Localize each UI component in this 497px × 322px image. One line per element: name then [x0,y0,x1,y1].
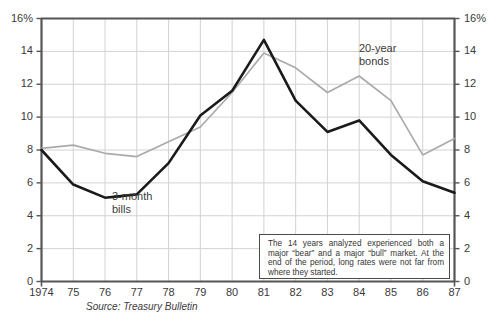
series-label-20-year-bonds: 20-year bonds [359,42,396,67]
callout-text: The 14 years analyzed experienced both a… [268,239,444,277]
y-axis-tick-label-left: 8 [0,143,33,155]
line-chart: 0246810121416% 0246810121416% 1974757677… [0,0,497,322]
series-line-20-year-bonds [42,53,455,157]
y-axis-tick-label-right: 14 [464,44,497,56]
y-axis-tick-label-right: 8 [464,143,497,155]
y-axis-tick-label-left: 0 [0,275,33,287]
y-axis-tick-label-left: 14 [0,44,33,56]
source-note: Source: Treasury Bulletin [86,301,198,312]
y-axis-tick-label-right: 16% [464,12,497,24]
y-axis-tick-label-left: 4 [0,209,33,221]
y-axis-tick-label-left: 2 [0,242,33,254]
y-axis-tick-label-right: 6 [464,176,497,188]
series-label-3-month-bills: 3-month bills [112,190,152,215]
y-axis-tick-label-left: 10 [0,110,33,122]
y-axis-tick-label-right: 2 [464,242,497,254]
y-axis-tick-label-left: 16% [0,12,33,24]
y-axis-tick-label-right: 12 [464,77,497,89]
y-axis-tick-label-right: 4 [464,209,497,221]
callout-box: The 14 years analyzed experienced both a… [259,234,450,279]
x-axis-tick-label: 87 [435,286,475,298]
y-axis-tick-label-right: 10 [464,110,497,122]
y-axis-tick-label-left: 12 [0,77,33,89]
y-axis-tick-label-right: 0 [464,275,497,287]
y-axis-tick-label-left: 6 [0,176,33,188]
